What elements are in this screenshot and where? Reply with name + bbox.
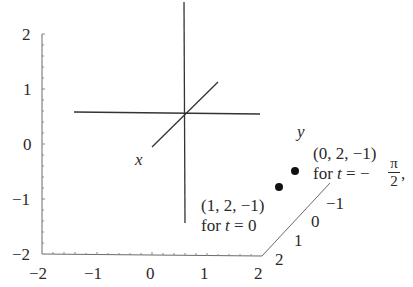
depth-tick-label: 2 [275, 251, 284, 268]
frame-axes [42, 34, 330, 256]
fraction-numerator: π [389, 156, 399, 171]
vertical-tick-label: 1 [23, 81, 32, 98]
point-condition: for t = − [313, 165, 370, 182]
x-axis-label: x [135, 151, 143, 168]
condition-prefix: for [313, 164, 337, 183]
coordinate-cross [74, 2, 260, 223]
point-coords: (1, 2, −1) [201, 197, 264, 214]
horizontal-tick-label: 2 [254, 265, 263, 282]
vertical-tick-label: −2 [12, 246, 30, 263]
horizontal-tick-label: −2 [29, 265, 47, 282]
y-axis-line [74, 112, 260, 114]
point-0-2-neg1 [291, 167, 299, 175]
horizontal-tick-label: −1 [84, 265, 102, 282]
y-axis-label: y [297, 123, 305, 140]
diagram-canvas: 2 1 0 −1 −2 −2 −1 0 1 2 2 1 0 −1 x y (1,… [0, 0, 413, 287]
z-axis-line [184, 2, 185, 223]
condition-value: = − [342, 164, 370, 183]
trailing-comma: , [401, 165, 405, 182]
vertical-tick-label: −1 [12, 191, 30, 208]
condition-prefix: for [201, 216, 225, 235]
vertical-tick-label: 0 [23, 136, 32, 153]
horizontal-tick-label: 0 [146, 265, 155, 282]
point-1-2-neg1 [275, 183, 283, 191]
fraction-denominator: 2 [389, 174, 399, 189]
depth-tick-label: 0 [311, 213, 320, 230]
depth-tick-label: 1 [294, 232, 303, 249]
vertical-tick-label: 2 [22, 26, 31, 43]
point-condition: for t = 0 [201, 217, 256, 234]
point-coords: (0, 2, −1) [313, 145, 376, 162]
horizontal-tick-label: 1 [200, 265, 209, 282]
condition-value: = 0 [230, 216, 257, 235]
depth-tick-label: −1 [326, 195, 344, 212]
